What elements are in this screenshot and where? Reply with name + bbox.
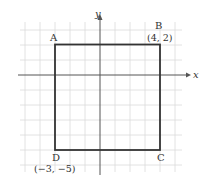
vertex-d-label: D	[52, 152, 60, 163]
vertex-a-label: A	[49, 32, 58, 43]
x-axis-label: x	[193, 69, 199, 80]
coordinate-plane: x y A B (4, 2) C D (−3, −5)	[0, 0, 208, 187]
vertex-b-coords: (4, 2)	[147, 32, 173, 43]
y-axis-label: y	[94, 8, 101, 19]
vertex-c-label: C	[157, 152, 165, 163]
vertex-b-label: B	[155, 20, 162, 31]
vertex-d-coords: (−3, −5)	[34, 163, 75, 174]
x-axis-arrow-icon	[186, 73, 191, 78]
